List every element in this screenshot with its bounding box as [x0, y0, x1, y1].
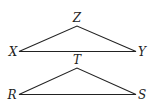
triangle-xyz: Z X Y [8, 11, 147, 59]
triangle-rst-shape [19, 68, 136, 95]
vertex-label-s: S [138, 88, 146, 102]
triangle-xyz-shape [19, 26, 136, 52]
diagram: Z X Y T R S [0, 0, 155, 110]
vertex-label-r: R [6, 88, 16, 102]
vertex-label-x: X [8, 45, 18, 59]
triangles-figure: Z X Y T R S [0, 0, 155, 110]
vertex-label-z: Z [72, 11, 82, 25]
triangle-rst: T R S [6, 53, 146, 102]
vertex-label-y: Y [138, 45, 147, 59]
vertex-label-t: T [73, 53, 82, 67]
